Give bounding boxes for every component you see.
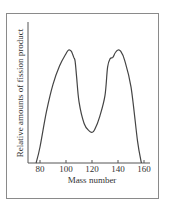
x-axis-label: Mass number — [68, 175, 117, 185]
x-tick-label: 80 — [36, 164, 46, 174]
x-tick-label: 120 — [85, 164, 99, 174]
x-tick-label: 100 — [59, 164, 73, 174]
x-tick-label: 140 — [111, 164, 125, 174]
fission-yield-chart: 80100120140160 Mass number Relative amou… — [0, 0, 173, 209]
x-ticks: 80100120140160 — [36, 160, 152, 174]
x-tick-label: 160 — [137, 164, 151, 174]
yield-curve — [36, 50, 141, 163]
y-axis-label: Relative amounts of fission product — [15, 28, 25, 157]
